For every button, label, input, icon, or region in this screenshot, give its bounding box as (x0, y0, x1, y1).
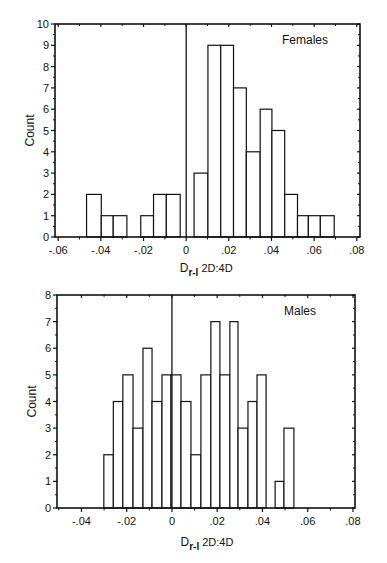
figure: -.06-.04-.020.02.04.06.08012345678910Cou… (0, 0, 387, 563)
histogram-bar (201, 375, 211, 508)
x-tick-label: .04 (264, 244, 279, 256)
x-tick-label: 0 (169, 515, 175, 527)
histogram-bar (194, 173, 208, 237)
x-axis-label: Dr-l 2D:4D (180, 535, 233, 552)
females-histogram: -.06-.04-.020.02.04.06.08012345678910Cou… (23, 18, 364, 278)
histogram-bar (230, 322, 238, 508)
y-tick-label: 5 (43, 125, 49, 137)
histogram-bar (113, 402, 123, 509)
histogram-bar (141, 216, 154, 237)
x-tick-label: .02 (210, 515, 225, 527)
histogram-bar (191, 455, 201, 508)
histogram-bar (284, 428, 294, 508)
histogram-bar (123, 375, 133, 508)
histogram-bar (152, 402, 162, 509)
histogram-bar (101, 216, 113, 237)
histogram-bar (87, 194, 102, 237)
y-tick-label: 8 (45, 289, 51, 301)
histogram-bar (208, 45, 221, 237)
y-tick-label: 0 (45, 502, 51, 514)
histogram-bar (220, 375, 230, 508)
x-tick-label: .04 (255, 515, 270, 527)
histogram-bar (104, 455, 114, 508)
y-tick-label: 6 (45, 342, 51, 354)
x-tick-label: .06 (300, 515, 315, 527)
y-tick-label: 10 (37, 18, 49, 30)
histogram-bar (181, 402, 191, 509)
y-tick-label: 7 (45, 316, 51, 328)
histogram-bar (260, 109, 272, 237)
x-tick-label: -.04 (72, 515, 91, 527)
bars (87, 45, 335, 237)
y-tick-label: 1 (45, 475, 51, 487)
x-tick-label: -.02 (134, 244, 153, 256)
y-axis-label: Count (23, 114, 37, 147)
y-tick-label: 7 (43, 82, 49, 94)
histogram-bar (246, 152, 260, 237)
histogram-bar (238, 428, 248, 508)
histogram-bar (211, 322, 220, 508)
y-tick-label: 0 (43, 231, 49, 243)
y-tick-label: 3 (43, 167, 49, 179)
y-tick-label: 4 (43, 146, 49, 158)
histogram-bar (234, 88, 247, 237)
histogram-bar (308, 216, 320, 237)
histogram-bar (275, 481, 284, 508)
bars (104, 322, 294, 508)
y-tick-label: 2 (45, 449, 51, 461)
x-tick-label: .08 (345, 515, 360, 527)
y-axis-label: Count (25, 385, 39, 418)
histogram-bar (298, 216, 309, 237)
x-axis-label: Dr-l 2D:4D (180, 261, 233, 278)
y-tick-label: 9 (43, 39, 49, 51)
histogram-bar (133, 428, 143, 508)
y-tick-label: 6 (43, 103, 49, 115)
histogram-bar (113, 216, 127, 237)
histogram-bar (285, 194, 298, 237)
y-tick-label: 2 (43, 188, 49, 200)
panel-title: Males (284, 304, 316, 318)
histogram-bar (257, 375, 266, 508)
x-tick-label: -.02 (117, 515, 136, 527)
y-tick-label: 1 (43, 210, 49, 222)
histogram-bar (166, 194, 180, 237)
y-tick-label: 8 (43, 61, 49, 73)
x-tick-label: .06 (306, 244, 321, 256)
histogram-bar (248, 402, 257, 509)
x-tick-label: .08 (349, 244, 364, 256)
x-tick-label: -.04 (91, 244, 110, 256)
y-tick-label: 3 (45, 422, 51, 434)
x-tick-label: .02 (221, 244, 236, 256)
x-tick-label: 0 (183, 244, 189, 256)
x-tick-label: -.06 (49, 244, 68, 256)
males-histogram: -.04-.020.02.04.06.08012345678CountDr-l … (25, 289, 361, 552)
panel-title: Females (282, 33, 328, 47)
histogram-bar (162, 375, 171, 508)
histogram-bar (272, 131, 285, 238)
histogram-bar (154, 194, 167, 237)
histogram-bar (320, 216, 334, 237)
histogram-bar (221, 45, 234, 237)
y-tick-label: 5 (45, 369, 51, 381)
y-tick-label: 4 (45, 396, 51, 408)
histogram-bar (143, 348, 152, 508)
